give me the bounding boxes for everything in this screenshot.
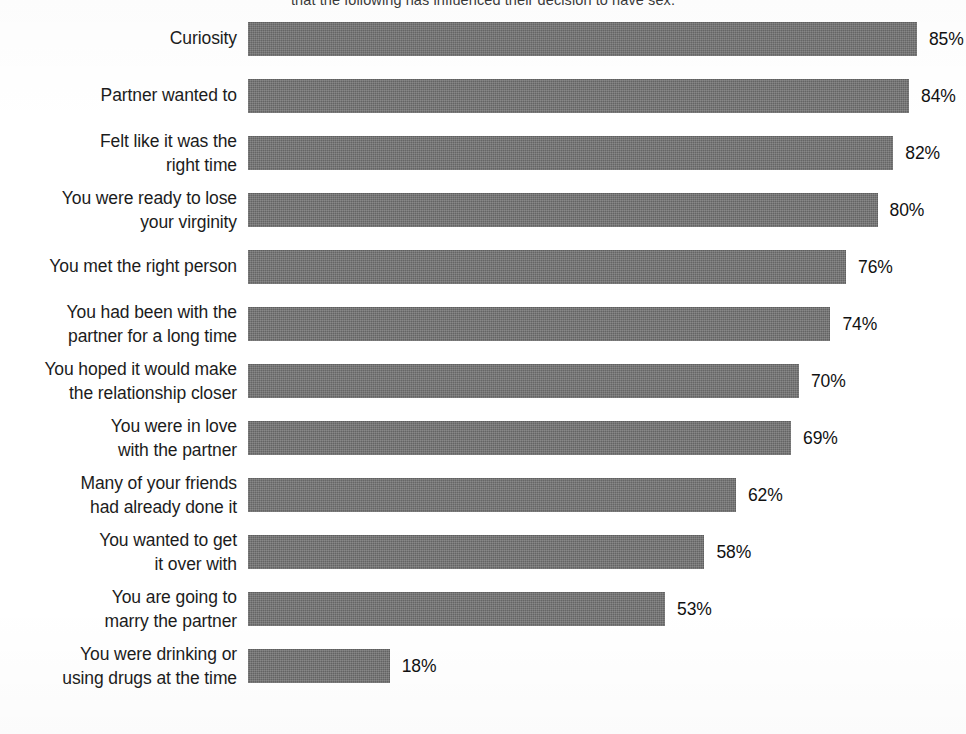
bar <box>248 79 909 113</box>
bar-value-label: 18% <box>402 654 437 678</box>
bar-row: You met the right person76% <box>0 250 966 284</box>
bar-value-label: 69% <box>803 426 838 450</box>
bar-value-label: 62% <box>748 483 783 507</box>
category-label: You were ready to lose your virginity <box>0 186 237 234</box>
bar-value-label: 82% <box>905 141 940 165</box>
bar <box>248 478 736 512</box>
bar-row: You are going to marry the partner53% <box>0 592 966 626</box>
bar-value-label: 84% <box>921 84 956 108</box>
bar-track: 80% <box>248 193 966 227</box>
bar-track: 82% <box>248 136 966 170</box>
category-label: You were in love with the partner <box>0 414 237 462</box>
category-label: You met the right person <box>0 254 237 278</box>
bar-chart: that the following has influenced their … <box>0 0 966 734</box>
bar-row: You had been with the partner for a long… <box>0 307 966 341</box>
bar <box>248 22 917 56</box>
bar <box>248 421 791 455</box>
bar-track: 53% <box>248 592 966 626</box>
bar <box>248 592 665 626</box>
category-label: Partner wanted to <box>0 83 237 107</box>
plot-area: Curiosity85%Partner wanted to84%Felt lik… <box>0 0 966 734</box>
category-label: You had been with the partner for a long… <box>0 300 237 348</box>
bar-track: 74% <box>248 307 966 341</box>
bar-row: You were ready to lose your virginity80% <box>0 193 966 227</box>
bar-track: 85% <box>248 22 966 56</box>
bar-value-label: 53% <box>677 597 712 621</box>
bar-row: Partner wanted to84% <box>0 79 966 113</box>
category-label: Many of your friends had already done it <box>0 471 237 519</box>
bar-value-label: 85% <box>929 27 964 51</box>
bar <box>248 136 893 170</box>
bar-track: 58% <box>248 535 966 569</box>
bar-track: 70% <box>248 364 966 398</box>
bar-track: 84% <box>248 79 966 113</box>
bar <box>248 649 390 683</box>
bar-row: Felt like it was the right time82% <box>0 136 966 170</box>
bar-row: Curiosity85% <box>0 22 966 56</box>
bar-track: 76% <box>248 250 966 284</box>
bar-row: Many of your friends had already done it… <box>0 478 966 512</box>
bar-track: 69% <box>248 421 966 455</box>
bar-row: You hoped it would make the relationship… <box>0 364 966 398</box>
category-label: You hoped it would make the relationship… <box>0 357 237 405</box>
bar <box>248 535 704 569</box>
category-label: Curiosity <box>0 26 237 50</box>
bar <box>248 364 799 398</box>
category-label: You wanted to get it over with <box>0 528 237 576</box>
bar-value-label: 80% <box>890 198 925 222</box>
bar-value-label: 70% <box>811 369 846 393</box>
bar-row: You wanted to get it over with58% <box>0 535 966 569</box>
bar-value-label: 58% <box>716 540 751 564</box>
category-label: Felt like it was the right time <box>0 129 237 177</box>
bar-track: 18% <box>248 649 966 683</box>
bar-row: You were drinking or using drugs at the … <box>0 649 966 683</box>
bar-value-label: 76% <box>858 255 893 279</box>
bar <box>248 250 846 284</box>
category-label: You were drinking or using drugs at the … <box>0 642 237 690</box>
bar-value-label: 74% <box>842 312 877 336</box>
category-label: You are going to marry the partner <box>0 585 237 633</box>
bar-row: You were in love with the partner69% <box>0 421 966 455</box>
bar-track: 62% <box>248 478 966 512</box>
bar <box>248 307 830 341</box>
bar <box>248 193 878 227</box>
